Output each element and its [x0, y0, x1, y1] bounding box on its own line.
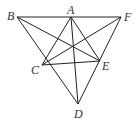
segment-ae — [71, 17, 100, 61]
label-a: A — [66, 3, 75, 17]
label-f: F — [123, 10, 132, 24]
label-c: C — [31, 63, 40, 77]
label-e: E — [101, 59, 110, 73]
segment-ad — [71, 17, 78, 104]
label-d: D — [73, 107, 83, 121]
segment-ac — [42, 17, 71, 65]
label-b: B — [7, 9, 15, 23]
segment-bd — [17, 17, 78, 104]
segment-ce — [42, 61, 100, 65]
geometry-figure: B A F C E D — [0, 0, 136, 127]
